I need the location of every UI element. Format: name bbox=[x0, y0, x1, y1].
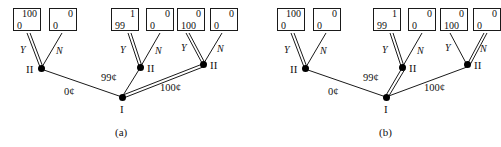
payoff-top-value: 0 bbox=[165, 8, 170, 19]
edge-middle-node-yes-2 bbox=[131, 33, 142, 65]
payoff-box: 1 99 bbox=[373, 8, 401, 31]
edge-left-node-yes-1 bbox=[291, 33, 304, 67]
payoff-box: 0 0 bbox=[313, 8, 341, 31]
payoff-top-value: 0 bbox=[196, 8, 201, 19]
branch-label-no: N bbox=[480, 44, 487, 54]
branch-label-yes: Y bbox=[20, 45, 26, 55]
branch-label-yes: Y bbox=[120, 45, 126, 55]
player-one-node-label: I bbox=[384, 104, 388, 115]
payoff-top-value: 0 bbox=[427, 8, 432, 19]
payoff-bottom-value: 0 bbox=[281, 20, 286, 31]
branch-label-yes: Y bbox=[445, 43, 451, 53]
payoff-box: 0 0 bbox=[49, 8, 77, 31]
edge-left-node-yes-2 bbox=[30, 33, 43, 66]
edge-right-node-yes-2 bbox=[189, 33, 204, 62]
edge-root-to-middle-node-1 bbox=[385, 68, 402, 97]
decision-node-left-label: II bbox=[290, 64, 297, 75]
payoff-box: 0 0 bbox=[210, 8, 238, 31]
payoff-bottom-value: 0 bbox=[214, 20, 219, 31]
decision-node-left bbox=[302, 65, 309, 72]
decision-node-middle bbox=[137, 64, 144, 71]
edge-right-node-yes-1 bbox=[186, 33, 202, 63]
payoff-bottom-value: 99 bbox=[115, 20, 125, 31]
payoff-box: 100 0 bbox=[277, 8, 305, 31]
panel-b: 100 0 0 0 1 99 0 0 0 100 0 0 Y N Y N Y N bbox=[249, 0, 498, 147]
branch-label-yes: Y bbox=[382, 45, 388, 55]
payoff-top-value: 0 bbox=[229, 8, 234, 19]
panel-caption: (b) bbox=[379, 126, 392, 138]
decision-node-right-label: II bbox=[210, 60, 217, 71]
payoff-bottom-value: 0 bbox=[53, 20, 58, 31]
edge-left-node-yes-2 bbox=[294, 33, 307, 66]
payoff-box: 0 0 bbox=[473, 8, 501, 31]
payoff-bottom-value: 100 bbox=[444, 20, 459, 31]
payoff-bottom-value: 0 bbox=[317, 20, 322, 31]
branch-label-yes: Y bbox=[284, 45, 290, 55]
payoff-top-value: 1 bbox=[392, 8, 397, 19]
player-one-node bbox=[119, 94, 126, 101]
payoff-box: 0 100 bbox=[177, 8, 205, 31]
decision-node-left-label: II bbox=[26, 64, 33, 75]
payoff-top-value: 100 bbox=[286, 8, 301, 19]
payoff-bottom-value: 0 bbox=[17, 20, 22, 31]
root-branch-label-99: 99¢ bbox=[363, 72, 379, 83]
decision-node-right bbox=[200, 61, 207, 68]
branch-label-no: N bbox=[56, 46, 63, 56]
payoff-top-value: 0 bbox=[68, 8, 73, 19]
branch-label-no: N bbox=[320, 46, 327, 56]
decision-node-middle-label: II bbox=[409, 63, 416, 74]
decision-node-middle bbox=[399, 64, 406, 71]
edge-left-node-yes-1 bbox=[27, 33, 40, 67]
root-branch-label-0: 0¢ bbox=[64, 86, 75, 97]
root-branch-label-0: 0¢ bbox=[328, 86, 339, 97]
player-one-node-label: I bbox=[120, 104, 124, 115]
edge-middle-node-yes-1 bbox=[390, 33, 401, 66]
root-branch-label-100: 100¢ bbox=[424, 82, 445, 93]
branch-label-yes: Y bbox=[181, 43, 187, 53]
panel-caption: (a) bbox=[115, 126, 127, 138]
payoff-top-value: 0 bbox=[332, 8, 337, 19]
payoff-top-value: 0 bbox=[459, 8, 464, 19]
payoff-bottom-value: 99 bbox=[377, 20, 387, 31]
decision-node-left bbox=[38, 65, 45, 72]
root-branch-label-99: 99¢ bbox=[101, 72, 117, 83]
edge-middle-node-yes-1 bbox=[128, 33, 139, 66]
payoff-bottom-value: 0 bbox=[412, 20, 417, 31]
edge-right-node-yes bbox=[450, 33, 466, 63]
payoff-top-value: 100 bbox=[22, 8, 37, 19]
branch-label-no: N bbox=[417, 46, 424, 56]
branch-label-no: N bbox=[155, 46, 162, 56]
player-one-node bbox=[383, 94, 390, 101]
payoff-box: 100 0 bbox=[13, 8, 41, 31]
payoff-top-value: 0 bbox=[492, 8, 497, 19]
decision-node-middle-label: II bbox=[147, 63, 154, 74]
payoff-box: 0 100 bbox=[440, 8, 468, 31]
decision-node-right-label: II bbox=[474, 60, 481, 71]
payoff-bottom-value: 100 bbox=[181, 20, 196, 31]
panel-a: 100 0 0 0 1 99 0 0 0 100 0 0 Y N Y N Y N bbox=[0, 0, 249, 147]
decision-node-right bbox=[464, 61, 471, 68]
payoff-bottom-value: 0 bbox=[477, 20, 482, 31]
payoff-box: 1 99 bbox=[111, 8, 139, 31]
edge-middle-node-yes-2 bbox=[393, 33, 404, 65]
payoff-bottom-value: 0 bbox=[150, 20, 155, 31]
payoff-top-value: 1 bbox=[130, 8, 135, 19]
payoff-box: 0 0 bbox=[146, 8, 174, 31]
branch-label-no: N bbox=[217, 44, 224, 54]
root-branch-label-100: 100¢ bbox=[160, 82, 181, 93]
payoff-box: 0 0 bbox=[408, 8, 436, 31]
